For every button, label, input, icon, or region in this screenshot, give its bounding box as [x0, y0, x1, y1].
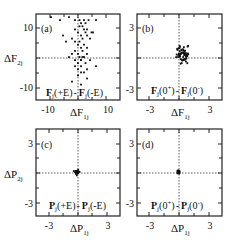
x-axis-label: ΔF1j: [70, 106, 89, 121]
data-point: [68, 56, 70, 58]
data-point: [74, 50, 76, 52]
y-tick-label-bottom: -3: [126, 198, 134, 209]
scatter-cluster: [177, 170, 181, 175]
data-point: [71, 38, 73, 40]
data-point: [74, 65, 76, 67]
data-point: [80, 35, 82, 37]
data-point: [187, 46, 189, 48]
x-tick-label-right: 3: [208, 220, 213, 231]
panel-annotation: Fj(+E)-Fj(-E): [46, 87, 103, 100]
data-point: [183, 54, 185, 56]
data-point: [80, 59, 82, 61]
data-point: [80, 65, 82, 67]
data-point: [80, 72, 82, 74]
data-point: [86, 47, 88, 49]
data-point: [86, 53, 88, 55]
data-point: [79, 56, 81, 58]
x-tick-label-right: 3: [208, 104, 213, 115]
panel-label: (a): [41, 23, 52, 35]
data-point: [88, 19, 90, 21]
x-tick-label-left: -3: [146, 220, 154, 231]
data-point: [74, 171, 76, 173]
data-point: [71, 81, 73, 83]
data-point: [77, 53, 79, 55]
data-point: [79, 25, 81, 27]
data-point: [65, 41, 67, 43]
data-point: [74, 29, 76, 31]
data-point: [95, 65, 97, 67]
y-tick-label-top: 3: [28, 138, 33, 149]
y-axis-label: ΔP2j: [4, 168, 23, 183]
data-point: [179, 47, 181, 49]
data-point: [82, 38, 84, 40]
scatter-cluster: [73, 169, 81, 177]
data-point: [85, 62, 87, 64]
data-point: [77, 169, 79, 171]
data-point: [59, 19, 61, 21]
x-axis-label: ΔP1j: [70, 222, 89, 237]
data-point: [95, 19, 97, 21]
data-point: [180, 58, 182, 60]
data-point: [89, 38, 91, 40]
x-tick-label-right: 3: [106, 220, 111, 231]
x-tick-label-left: -3: [146, 104, 154, 115]
data-point: [176, 48, 178, 50]
data-point: [77, 75, 79, 77]
y-tick-label-bottom: -10: [20, 82, 33, 93]
data-point: [181, 52, 183, 54]
data-point: [182, 49, 184, 51]
data-point: [77, 32, 79, 34]
data-point: [182, 56, 184, 58]
data-point: [79, 41, 81, 43]
data-point: [77, 62, 79, 64]
data-point: [77, 44, 79, 46]
data-point: [186, 57, 188, 59]
panel-label: (c): [41, 139, 52, 151]
data-point: [83, 29, 85, 31]
x-axis-label: ΔF1j: [171, 106, 190, 121]
x-tick-label-left: -10: [41, 104, 54, 115]
data-point: [74, 19, 76, 21]
data-point: [85, 32, 87, 34]
data-point: [178, 53, 180, 55]
data-point: [182, 60, 184, 62]
data-point: [178, 170, 180, 172]
data-point: [179, 55, 181, 57]
panel-c: 3 -3 -3 3 (c) ΔP1j ΔP2j Pj(+E)-Pj(-E): [4, 129, 120, 237]
data-point: [80, 84, 82, 86]
data-point: [86, 29, 88, 31]
data-point: [82, 56, 84, 58]
data-point: [83, 44, 85, 46]
data-point: [82, 25, 84, 27]
data-point: [86, 68, 88, 70]
data-point: [89, 59, 91, 61]
data-point: [86, 35, 88, 37]
x-axis-label: ΔP1j: [171, 222, 190, 237]
y-tick-label-top: 10: [23, 22, 33, 33]
data-point: [74, 41, 76, 43]
data-point: [83, 19, 85, 21]
data-point: [77, 68, 79, 70]
scatter-points: [50, 16, 97, 85]
y-tick-label-bottom: -3: [25, 198, 33, 209]
scatter-cluster: [175, 45, 189, 65]
data-point: [74, 59, 76, 61]
panel-annotation: Fj(0+)-Fj(0-): [151, 84, 203, 98]
data-point: [183, 46, 185, 48]
data-point: [82, 50, 84, 52]
data-point: [186, 55, 188, 57]
data-point: [92, 32, 94, 34]
y-tick-label-bottom: -3: [126, 84, 134, 95]
data-point: [185, 61, 187, 63]
data-point: [80, 22, 82, 24]
data-point: [183, 52, 185, 54]
panel-annotation: Pj(0+)-Pj(0-): [151, 199, 203, 213]
data-point: [185, 52, 187, 54]
data-point: [83, 72, 85, 74]
data-point: [176, 54, 178, 56]
y-tick-label-top: 3: [129, 138, 134, 149]
data-point: [85, 22, 87, 24]
panel-label: (b): [142, 23, 154, 35]
data-point: [62, 35, 64, 37]
data-point: [177, 56, 179, 58]
